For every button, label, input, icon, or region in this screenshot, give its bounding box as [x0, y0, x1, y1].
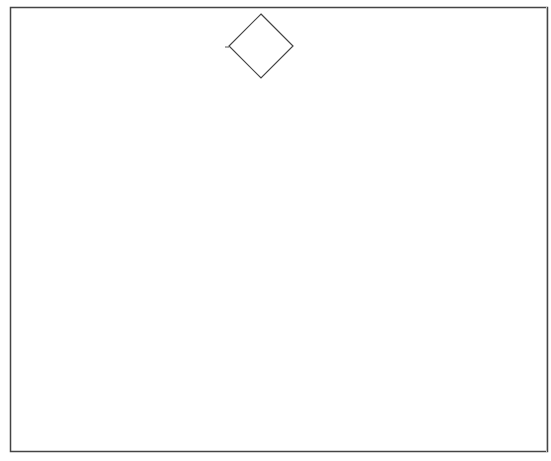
flowchart	[0, 0, 551, 461]
decision-chart-type	[229, 14, 293, 78]
outer-frame	[11, 8, 548, 452]
